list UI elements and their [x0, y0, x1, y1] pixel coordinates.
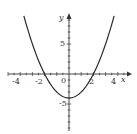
y-axis: [67, 13, 72, 131]
x-tick-label-2: 2: [89, 78, 94, 86]
y-axis-label: y: [59, 14, 64, 22]
origin-label: 0: [61, 77, 66, 85]
x-tick-label-4: 4: [111, 78, 116, 86]
x-axis-arrow-icon: [127, 72, 132, 77]
x-tick-label-neg4: -4: [12, 78, 20, 86]
x-axis-label: x: [121, 76, 126, 84]
parabola-plot: [0, 0, 137, 134]
y-tick-label-5: 5: [60, 40, 65, 48]
y-tick-label-neg5: -5: [59, 100, 67, 108]
y-axis-arrow-icon: [67, 13, 72, 19]
x-tick-label-neg2: -2: [35, 78, 43, 86]
